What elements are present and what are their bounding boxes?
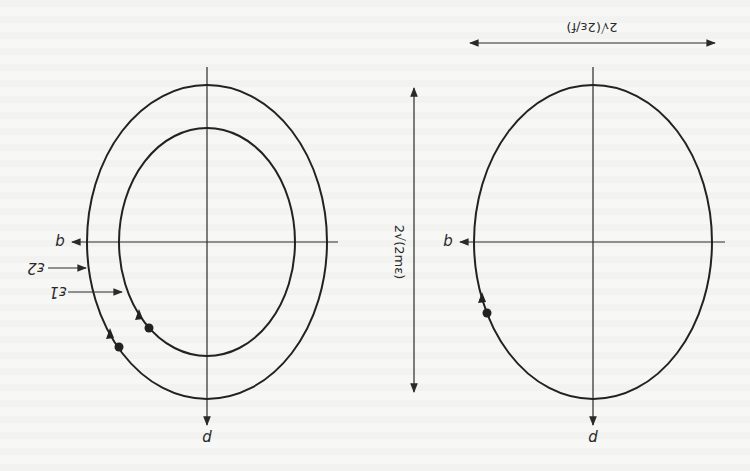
- right-direction-arrow-icon: [478, 292, 486, 303]
- inner-state-dot: [145, 324, 154, 333]
- phase-space-figure: ε2 ε1 q p 2√(2mε) 2√(2ε/f) q p: [0, 0, 750, 471]
- right-q-label: q: [443, 234, 453, 252]
- right-p-label: p: [588, 430, 599, 448]
- eps2-label: ε2: [27, 260, 45, 278]
- left-q-label: q: [55, 234, 65, 252]
- outer-state-dot: [115, 343, 124, 352]
- horizontal-dimension-label: 2√(2ε/f): [567, 21, 618, 36]
- left-p-label: p: [202, 430, 213, 448]
- vertical-dimension-label: 2√(2mε): [393, 225, 408, 280]
- left-phase-diagram: ε2 ε1 q p: [27, 67, 338, 448]
- right-phase-diagram: 2√(2ε/f) q p: [443, 21, 725, 448]
- eps1-label: ε1: [49, 284, 67, 302]
- right-state-dot: [483, 309, 492, 318]
- vertical-dimension: 2√(2mε): [393, 88, 415, 392]
